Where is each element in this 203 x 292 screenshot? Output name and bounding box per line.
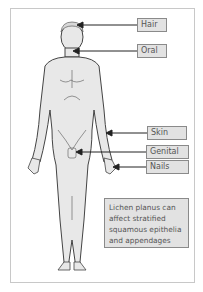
label-genital: Genital (146, 145, 189, 159)
label-skin: Skin (147, 126, 187, 140)
label-oral: Oral (137, 44, 167, 58)
label-hair: Hair (137, 18, 167, 32)
label-nails: Nails (146, 160, 189, 174)
note-box: Lichen planus can affect stratified squa… (104, 198, 189, 248)
